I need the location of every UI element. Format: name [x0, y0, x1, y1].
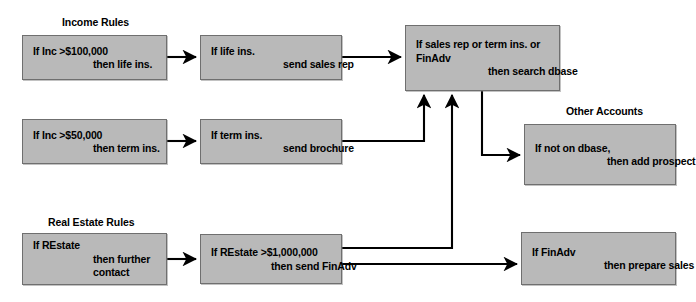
group-label-real-estate-rules: Real Estate Rules	[48, 216, 134, 228]
node-term-ins-line-1: send brochure	[211, 142, 335, 156]
node-term-ins[interactable]: If term ins. send brochure	[200, 119, 342, 164]
node-search-dbase[interactable]: If sales rep or term ins. or FinAdv then…	[405, 25, 560, 91]
node-inc-50k[interactable]: If Inc >$50,000 then term ins.	[22, 119, 167, 164]
edge-searchdbase-to-prospectfile	[482, 91, 520, 155]
node-restate-line-1: then further	[33, 252, 160, 266]
edge-restate1m-to-searchdbase	[342, 95, 452, 248]
group-label-other-accounts: Other Accounts	[566, 105, 643, 117]
node-search-dbase-line-1: FinAdv	[416, 51, 553, 65]
node-search-dbase-line-0: If sales rep or term ins. or	[416, 38, 553, 52]
node-life-ins-line-1: send sales rep	[211, 58, 335, 72]
node-sales-kit[interactable]: If FinAdv then prepare sales kit	[521, 232, 676, 285]
node-restate-1m-line-0: If REstate >$1,000,000	[211, 246, 335, 260]
node-term-ins-line-0: If term ins.	[211, 128, 335, 142]
node-sales-kit-line-1: then prepare sales kit	[532, 259, 669, 273]
node-inc-100k-line-1: then life ins.	[33, 58, 160, 72]
node-prospect-file-line-0: If not on dbase,	[535, 141, 669, 155]
node-restate-1m[interactable]: If REstate >$1,000,000 then send FinAdv	[200, 234, 342, 284]
node-prospect-file[interactable]: If not on dbase, then add prospect file	[524, 124, 676, 185]
node-search-dbase-line-2: then search dbase	[416, 65, 553, 79]
node-sales-kit-text: If FinAdv then prepare sales kit	[532, 245, 669, 272]
node-inc-50k-line-1: then term ins.	[33, 142, 160, 156]
node-term-ins-text: If term ins. send brochure	[211, 128, 335, 155]
node-life-ins-line-0: If life ins.	[211, 44, 335, 58]
node-life-ins-text: If life ins. send sales rep	[211, 44, 335, 71]
node-restate[interactable]: If REstate then further contact	[22, 233, 167, 285]
edge-termins-to-searchdbase	[342, 95, 424, 141]
node-prospect-file-text: If not on dbase, then add prospect file	[535, 141, 669, 168]
flowchart-diagram: Income Rules Other Accounts Real Estate …	[0, 0, 696, 302]
node-inc-50k-text: If Inc >$50,000 then term ins.	[33, 128, 160, 155]
node-restate-line-2: contact	[33, 266, 160, 280]
node-inc-50k-line-0: If Inc >$50,000	[33, 128, 160, 142]
node-sales-kit-line-0: If FinAdv	[532, 245, 669, 259]
node-inc-100k-line-0: If Inc >$100,000	[33, 44, 160, 58]
node-restate-1m-text: If REstate >$1,000,000 then send FinAdv	[211, 246, 335, 273]
group-label-income-rules: Income Rules	[62, 16, 129, 28]
node-life-ins[interactable]: If life ins. send sales rep	[200, 35, 342, 80]
node-restate-1m-line-1: then send FinAdv	[211, 259, 335, 273]
node-search-dbase-text: If sales rep or term ins. or FinAdv then…	[416, 38, 553, 79]
node-restate-text: If REstate then further contact	[33, 239, 160, 280]
node-restate-line-0: If REstate	[33, 239, 160, 253]
node-inc-100k-text: If Inc >$100,000 then life ins.	[33, 44, 160, 71]
node-inc-100k[interactable]: If Inc >$100,000 then life ins.	[22, 35, 167, 80]
node-prospect-file-line-1: then add prospect file	[535, 155, 669, 169]
